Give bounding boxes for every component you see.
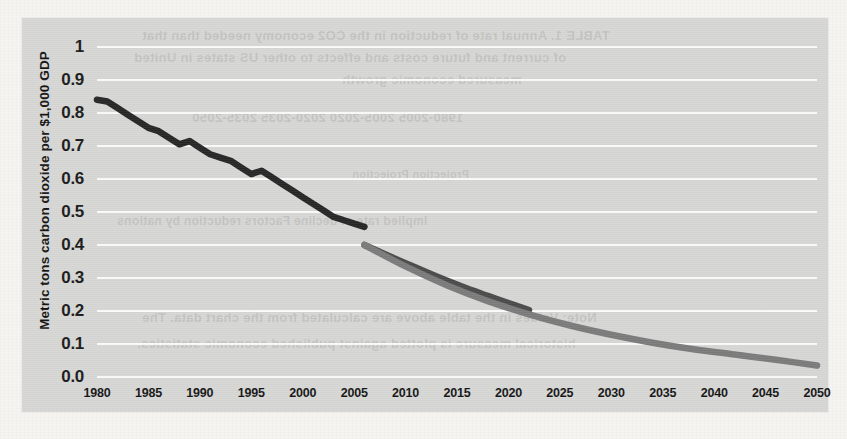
x-tick-label: 2045 <box>752 386 779 400</box>
series-line-history <box>97 100 364 227</box>
x-tick-label: 2020 <box>495 386 522 400</box>
y-tick-label: 0.6 <box>61 169 84 189</box>
x-tick-label: 2030 <box>598 386 625 400</box>
y-tick-label: 0.4 <box>61 235 84 255</box>
x-tick-label: 1990 <box>186 386 213 400</box>
x-tick-label: 2000 <box>289 386 316 400</box>
y-tick-label: 0.0 <box>61 367 84 387</box>
data-series-layer <box>97 47 817 377</box>
chart-figure: TABLE 1. Annual rate of reduction in the… <box>22 18 828 412</box>
x-tick-label: 2025 <box>546 386 573 400</box>
series-line-projection-low <box>364 245 817 365</box>
ghost-line-1: TABLE 1. Annual rate of reduction in the… <box>142 28 610 43</box>
y-tick-label: 0.8 <box>61 103 84 123</box>
y-tick-label: 0.2 <box>61 301 84 321</box>
y-tick-label: 0.7 <box>61 136 84 156</box>
y-tick-label: 0.3 <box>61 268 84 288</box>
x-tick-label: 2010 <box>392 386 419 400</box>
y-tick-label: 0.9 <box>61 70 84 90</box>
x-tick-label: 1985 <box>135 386 162 400</box>
x-tick-label: 1980 <box>83 386 110 400</box>
plot-area <box>97 47 817 377</box>
y-tick-label: 1 <box>75 37 84 57</box>
x-tick-label: 2040 <box>701 386 728 400</box>
x-tick-label: 2035 <box>649 386 676 400</box>
y-axis-tick-labels: 10.90.80.70.60.50.40.30.20.10.0 <box>22 47 90 377</box>
x-axis-tick-labels: 1980198519901995200020052010201520202025… <box>97 386 817 412</box>
x-tick-label: 1995 <box>238 386 265 400</box>
y-tick-label: 0.5 <box>61 202 84 222</box>
x-tick-label: 2050 <box>803 386 830 400</box>
x-tick-label: 2005 <box>341 386 368 400</box>
y-tick-label: 0.1 <box>61 334 84 354</box>
x-tick-label: 2015 <box>443 386 470 400</box>
